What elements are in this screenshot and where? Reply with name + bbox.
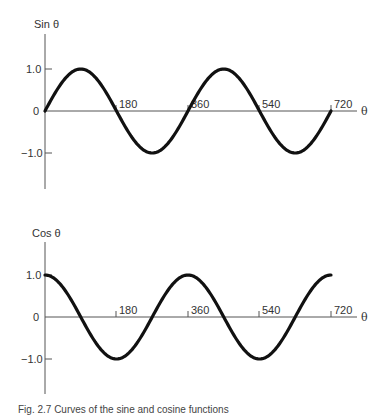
sine-axis-label: Sin θ xyxy=(34,18,59,30)
cosine-xlabel-540: 540 xyxy=(262,304,280,316)
sine-ylabel-pos: 1.0 xyxy=(26,63,41,75)
sine-xlabel-720: 720 xyxy=(334,98,352,110)
cosine-xlabel-360: 360 xyxy=(191,304,209,316)
cosine-chart: Cos θ 1.0 0 −1.0 180 360 540 720 θ xyxy=(21,227,368,394)
cosine-ylabel-neg: −1.0 xyxy=(21,353,43,365)
figure-caption: Fig. 2.7 Curves of the sine and cosine f… xyxy=(18,404,229,415)
sine-chart: Sin θ 1.0 0 −1.0 180 360 540 720 θ xyxy=(21,18,368,189)
cosine-theta-label: θ xyxy=(361,311,368,324)
sine-theta-label: θ xyxy=(361,105,368,118)
sine-ylabel-zero: 0 xyxy=(33,105,39,117)
sine-ylabel-neg: −1.0 xyxy=(21,147,43,159)
sine-xlabel-540: 540 xyxy=(262,98,280,110)
sine-xlabel-180: 180 xyxy=(119,98,137,110)
cosine-ylabel-zero: 0 xyxy=(33,311,39,323)
cosine-axis-label: Cos θ xyxy=(32,227,61,239)
cosine-xlabel-720: 720 xyxy=(334,304,352,316)
cosine-xlabel-180: 180 xyxy=(119,304,137,316)
cosine-ylabel-pos: 1.0 xyxy=(26,269,41,281)
